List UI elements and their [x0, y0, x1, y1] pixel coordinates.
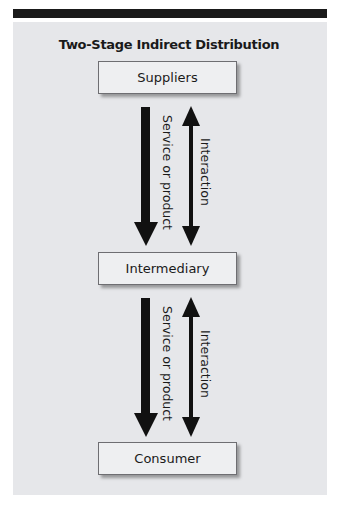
flow-arrow-down-icon: [134, 298, 158, 437]
flow-arrow-down-icon: [134, 107, 158, 246]
interaction-label: Interaction: [198, 138, 213, 206]
arrows-layer: [0, 0, 338, 505]
flow-label: Service or product: [160, 115, 175, 230]
interaction-label: Interaction: [198, 330, 213, 398]
flow-label: Service or product: [160, 306, 175, 421]
